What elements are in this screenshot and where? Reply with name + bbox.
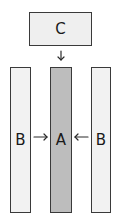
arrow-left-icon bbox=[75, 134, 88, 140]
arrow-right-icon bbox=[34, 134, 47, 140]
edges-layer bbox=[0, 0, 118, 221]
arrow-down-icon bbox=[58, 51, 64, 60]
